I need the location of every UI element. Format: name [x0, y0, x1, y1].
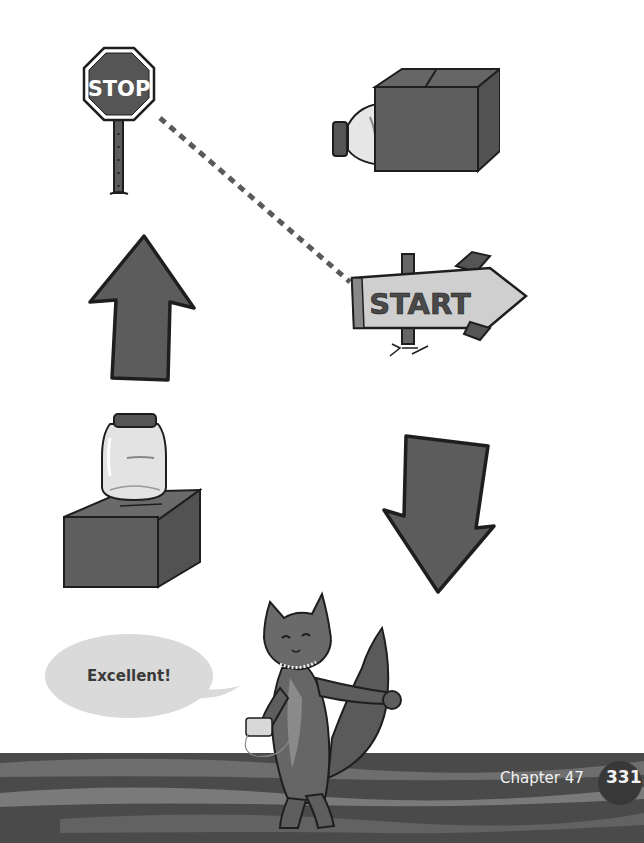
stop-sign-text: STOP	[88, 77, 151, 101]
bottle-in-box-icon	[330, 65, 500, 175]
page-number: 331	[606, 767, 642, 787]
start-sign-text: START	[369, 287, 471, 321]
bottle-in-box	[330, 65, 500, 175]
chapter-label: Chapter 47	[500, 769, 584, 787]
up-arrow	[86, 232, 198, 382]
wolf-character	[236, 588, 416, 838]
arrow-down-icon	[380, 432, 498, 597]
stop-sign-icon: STOP	[80, 44, 160, 199]
start-sign-icon: START	[340, 248, 530, 363]
wolf-mascot-icon	[236, 588, 416, 838]
down-arrow	[380, 432, 498, 597]
speech-bubble: Excellent!	[44, 630, 244, 722]
speech-bubble-text: Excellent!	[44, 630, 214, 722]
jar-on-box	[62, 412, 202, 590]
arrow-up-icon	[86, 232, 198, 382]
stop-sign: STOP	[80, 44, 160, 199]
start-sign: START	[340, 248, 530, 363]
jar-on-box-icon	[62, 412, 202, 590]
